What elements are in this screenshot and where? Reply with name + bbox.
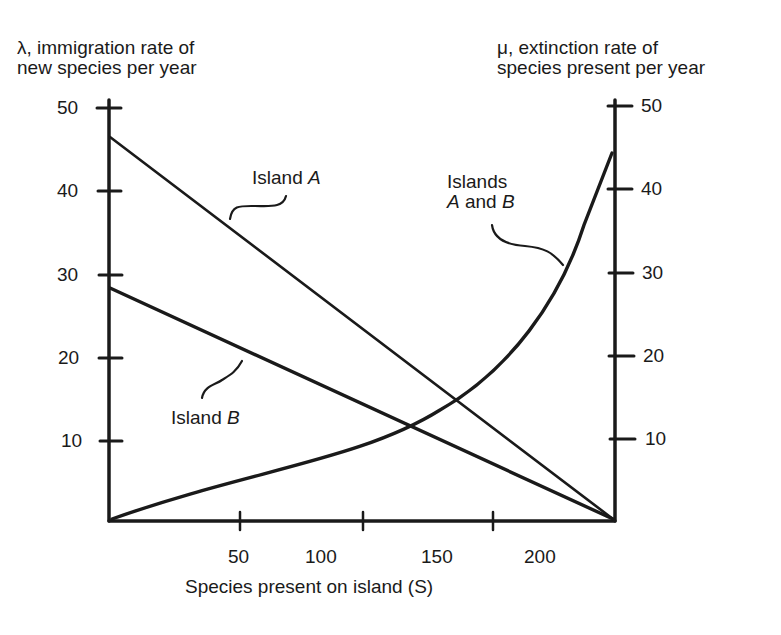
island-b-annotation: Island B <box>171 408 240 428</box>
x-tick-200: 200 <box>524 547 556 567</box>
left-axis-label-line1: λ, immigration rate of <box>17 38 197 58</box>
x-tick-50: 50 <box>228 547 249 567</box>
right-tick-50: 50 <box>641 96 662 116</box>
x-tick-150: 150 <box>421 547 453 567</box>
right-tick-30: 30 <box>642 263 663 283</box>
right-axis-label: μ, extinction rate of species present pe… <box>497 38 705 78</box>
right-tick-40: 40 <box>641 179 662 199</box>
island-a-pointer <box>230 196 286 219</box>
left-axis-label-line2: new species per year <box>17 58 197 78</box>
left-tick-10: 10 <box>61 431 82 451</box>
right-tick-20: 20 <box>643 346 664 366</box>
island-b-line <box>110 288 613 519</box>
islands-ab-pointer <box>492 225 563 265</box>
islands-ab-annotation: Islands A and B <box>447 172 515 212</box>
x-axis-label: Species present on island (S) <box>185 577 433 597</box>
left-tick-40: 40 <box>57 181 78 201</box>
extinction-curve <box>112 153 612 519</box>
right-axis-label-line2: species present per year <box>497 58 705 78</box>
chart-canvas <box>0 0 781 635</box>
left-tick-20: 20 <box>58 348 79 368</box>
x-tick-100: 100 <box>305 547 337 567</box>
left-tick-30: 30 <box>57 265 78 285</box>
right-axis-label-line1: μ, extinction rate of <box>497 38 705 58</box>
island-b-pointer <box>202 361 242 398</box>
island-a-annotation: Island A <box>252 168 321 188</box>
left-axis-label: λ, immigration rate of new species per y… <box>17 38 197 78</box>
left-tick-50: 50 <box>57 98 78 118</box>
island-a-line <box>110 137 613 519</box>
right-tick-10: 10 <box>645 429 666 449</box>
